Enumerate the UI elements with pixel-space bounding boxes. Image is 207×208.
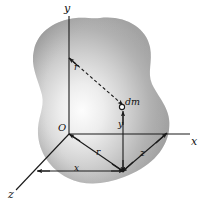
- diagram-svg: [0, 0, 207, 208]
- y-axis-label: y: [64, 3, 70, 14]
- figure-canvas: y x z O dm r y r z x: [0, 0, 207, 208]
- rigid-body-shape: [33, 18, 170, 184]
- origin-label: O: [58, 123, 66, 133]
- y-coordinate-label: y: [118, 120, 123, 129]
- mass-element-label: dm: [125, 97, 140, 107]
- x-coordinate-label: x: [74, 164, 79, 173]
- upper-radius-label: r: [74, 63, 78, 72]
- x-axis-label: x: [191, 136, 197, 147]
- mass-element-point: [119, 104, 124, 109]
- radial-distance-label: r: [96, 148, 100, 157]
- z-coordinate-label: z: [140, 149, 145, 158]
- z-axis-label: z: [8, 189, 14, 200]
